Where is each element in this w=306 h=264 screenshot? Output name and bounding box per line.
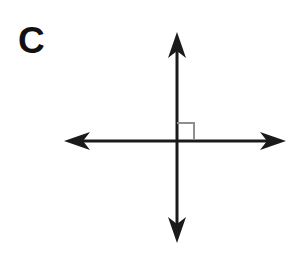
geometry-figure: C [0, 0, 306, 264]
right-angle-square-icon [178, 123, 194, 139]
horizontal-double-arrow [64, 132, 286, 150]
perpendicular-lines-diagram [0, 0, 306, 264]
vertical-double-arrow [168, 32, 186, 243]
